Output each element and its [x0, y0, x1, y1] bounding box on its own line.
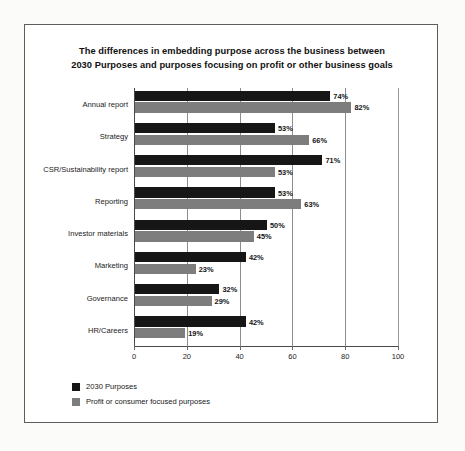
x-tick-60	[292, 346, 293, 350]
x-tick-label: 20	[183, 352, 191, 361]
bar-group-series-b: 66%	[135, 135, 309, 145]
legend-label-series-a: 2030 Purposes	[86, 382, 137, 391]
bar-value-label: 50%	[270, 220, 285, 229]
chart-title-line-1: The differences in embedding purpose acr…	[25, 45, 439, 59]
bar-group-series-b: 53%	[135, 167, 275, 177]
bar-value-label: 42%	[249, 253, 264, 262]
bar-value-label: 71%	[325, 156, 340, 165]
bar	[135, 91, 330, 101]
bar	[135, 296, 212, 306]
bar-group-series-a: 42%	[135, 316, 246, 326]
legend-swatch-icon-series-a	[72, 383, 80, 391]
chart-title: The differences in embedding purpose acr…	[25, 45, 439, 72]
bar-value-label: 45%	[257, 232, 272, 241]
bar	[135, 167, 275, 177]
bar	[135, 328, 185, 338]
bar-group-series-b: 63%	[135, 199, 301, 209]
bar-value-label: 32%	[222, 285, 237, 294]
category-label: Marketing	[95, 261, 128, 270]
category-label: Annual report	[82, 100, 128, 109]
chart-category-row: Governance32%29%	[134, 282, 398, 314]
x-tick-label: 100	[392, 352, 405, 361]
bar-group-series-a: 53%	[135, 123, 275, 133]
x-tick-40	[240, 346, 241, 350]
bar	[135, 102, 351, 112]
bar-group-series-b: 19%	[135, 328, 185, 338]
x-tick-label: 80	[341, 352, 349, 361]
bar-value-label: 53%	[278, 188, 293, 197]
chart-category-row: Investor materials50%45%	[134, 217, 398, 249]
legend-item-series-b: Profit or consumer focused purposes	[72, 395, 210, 408]
chart-category-row: Strategy53%66%	[134, 120, 398, 152]
legend-item-series-a: 2030 Purposes	[72, 380, 210, 393]
category-rows-group: Annual report74%82%Strategy53%66%CSR/Sus…	[134, 88, 398, 346]
bar-value-label: 23%	[199, 264, 214, 273]
bar-group-series-a: 50%	[135, 220, 267, 230]
gridline-100	[398, 88, 399, 346]
bar-group-series-b: 29%	[135, 296, 212, 306]
category-label: Reporting	[95, 196, 128, 205]
bar-value-label: 29%	[215, 296, 230, 305]
bar-value-label: 53%	[278, 167, 293, 176]
chart-category-row: HR/Careers42%19%	[134, 314, 398, 346]
x-tick-label: 0	[132, 352, 136, 361]
legend-label-series-b: Profit or consumer focused purposes	[86, 397, 210, 406]
bar-group-series-b: 82%	[135, 102, 351, 112]
bar-group-series-a: 74%	[135, 91, 330, 101]
bar	[135, 231, 254, 241]
bar-value-label: 42%	[249, 317, 264, 326]
chart-legend: 2030 Purposes Profit or consumer focused…	[72, 380, 210, 410]
category-label: Investor materials	[68, 229, 128, 238]
chart-category-row: Annual report74%82%	[134, 88, 398, 120]
bar	[135, 252, 246, 262]
bar	[135, 284, 219, 294]
x-tick-0	[134, 346, 135, 350]
bar	[135, 135, 309, 145]
category-label: Strategy	[100, 132, 128, 141]
bar	[135, 316, 246, 326]
bar-value-label: 66%	[312, 135, 327, 144]
bar	[135, 123, 275, 133]
chart-plot-area: Annual report74%82%Strategy53%66%CSR/Sus…	[134, 88, 398, 346]
bar-value-label: 19%	[188, 329, 203, 338]
x-tick-80	[345, 346, 346, 350]
bar-group-series-a: 71%	[135, 155, 322, 165]
bar	[135, 155, 322, 165]
bar-group-series-a: 53%	[135, 187, 275, 197]
chart-category-row: CSR/Sustainability report71%53%	[134, 153, 398, 185]
x-tick-label: 40	[235, 352, 243, 361]
chart-title-line-2: 2030 Purposes and purposes focusing on p…	[25, 59, 439, 73]
category-label: HR/Careers	[88, 325, 128, 334]
x-axis-line	[134, 346, 399, 347]
bar	[135, 264, 196, 274]
bar-value-label: 53%	[278, 124, 293, 133]
bar	[135, 220, 267, 230]
bar	[135, 187, 275, 197]
x-tick-20	[187, 346, 188, 350]
bar-value-label: 82%	[354, 103, 369, 112]
category-label: CSR/Sustainability report	[43, 164, 128, 173]
legend-swatch-icon-series-b	[72, 398, 80, 406]
bar-value-label: 74%	[333, 91, 348, 100]
x-tick-100	[398, 346, 399, 350]
category-label: Governance	[87, 293, 128, 302]
bar-value-label: 63%	[304, 200, 319, 209]
bar-group-series-b: 23%	[135, 264, 196, 274]
chart-category-row: Reporting53%63%	[134, 185, 398, 217]
chart-category-row: Marketing42%23%	[134, 249, 398, 281]
bar-group-series-a: 32%	[135, 284, 219, 294]
bar-group-series-a: 42%	[135, 252, 246, 262]
bar-group-series-b: 45%	[135, 231, 254, 241]
chart-figure-frame: The differences in embedding purpose acr…	[24, 24, 438, 423]
x-tick-label: 60	[288, 352, 296, 361]
bar	[135, 199, 301, 209]
